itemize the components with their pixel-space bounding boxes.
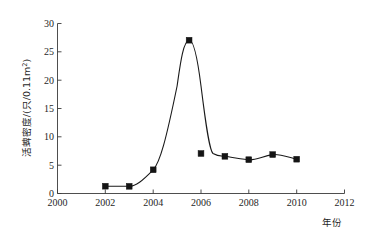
data-series-activetick-density — [105, 40, 296, 186]
x-axis-ticks — [58, 190, 345, 194]
data-point-2007 — [222, 153, 228, 159]
y-tick-label-25: 25 — [44, 46, 54, 57]
y-tick-label-5: 5 — [49, 160, 54, 171]
y-tick-label-30: 30 — [44, 18, 54, 29]
y-axis-title-main: 活蜱密度/(只/0.11m — [21, 67, 32, 158]
line-chart-canvas: 0 5 10 15 20 25 30 2000 2002 2004 2006 2… — [0, 0, 370, 244]
data-point-2006 — [198, 151, 204, 157]
y-axis-title-tail: ) — [21, 59, 32, 63]
y-tick-label-15: 15 — [44, 103, 54, 114]
x-tick-label-2010: 2010 — [287, 197, 307, 208]
y-tick-labels: 0 5 10 15 20 25 30 — [44, 18, 54, 199]
data-point-2004 — [150, 167, 156, 173]
data-point-2005 — [186, 37, 192, 43]
axis-lines — [58, 24, 345, 194]
data-point-2009 — [270, 152, 276, 158]
x-tick-label-2002: 2002 — [95, 197, 115, 208]
series-line-path — [105, 40, 296, 186]
x-tick-label-2000: 2000 — [48, 197, 68, 208]
data-point-2008 — [246, 157, 252, 163]
y-tick-label-20: 20 — [44, 75, 54, 86]
data-markers — [102, 37, 299, 189]
x-axis-title: 年份 — [322, 217, 342, 228]
y-axis-title: 活蜱密度/(只/0.11m2) — [21, 59, 32, 157]
svg-text:活蜱密度/(只/0.11m2): 活蜱密度/(只/0.11m2) — [21, 59, 32, 157]
chart-axes — [58, 24, 345, 194]
y-axis-ticks — [58, 24, 62, 194]
x-tick-label-2004: 2004 — [143, 197, 163, 208]
chart-figure: 0 5 10 15 20 25 30 2000 2002 2004 2006 2… — [0, 0, 370, 244]
x-tick-label-2006: 2006 — [191, 197, 211, 208]
x-tick-label-2008: 2008 — [239, 197, 259, 208]
data-point-2003 — [126, 183, 132, 189]
y-tick-label-10: 10 — [44, 131, 54, 142]
data-point-2002 — [102, 183, 108, 189]
data-point-2010 — [294, 156, 300, 162]
x-tick-labels: 2000 2002 2004 2006 2008 2010 2012 — [48, 197, 355, 208]
x-tick-label-2012: 2012 — [335, 197, 355, 208]
